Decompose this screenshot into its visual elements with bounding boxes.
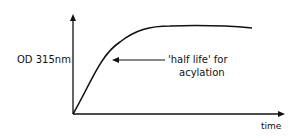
y-axis-arrow-icon <box>70 14 76 21</box>
x-axis-label: time <box>261 121 281 131</box>
y-axis-label: OD 315nm <box>17 54 71 65</box>
x-axis-arrow-icon <box>278 111 285 117</box>
curve <box>73 26 252 114</box>
annotation-text-1: 'half life' for <box>168 54 228 65</box>
annotation-arrow-head-icon <box>112 57 119 63</box>
curve-diagram <box>0 0 303 138</box>
annotation-text-2: acylation <box>179 67 225 78</box>
